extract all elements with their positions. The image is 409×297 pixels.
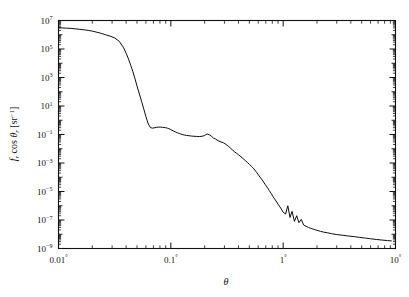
x-axis-title: θ: [224, 276, 229, 287]
figure-root: 0.01°0.1°1°10° 10710510310110−110−310−51…: [0, 0, 409, 297]
log-log-plot: 0.01°0.1°1°10° 10710510310110−110−310−51…: [0, 0, 409, 297]
